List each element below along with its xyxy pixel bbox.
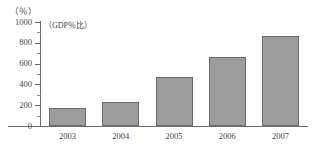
x-tick-label: 2006 [201, 131, 254, 141]
bar-2005 [156, 77, 193, 126]
y-tick-label: 200 [19, 101, 32, 110]
y-axis-unit-label: （％） [10, 4, 38, 16]
bar-2007 [262, 36, 299, 126]
x-axis-line [8, 126, 308, 127]
bar-2006 [209, 57, 246, 126]
x-tick-label: 2003 [41, 131, 94, 141]
bar-chart: （％） （GDP％比） 10008006004002000 2003200420… [0, 0, 315, 163]
y-tick-major [35, 126, 41, 127]
y-tick-label: 1000 [15, 18, 32, 27]
y-tick-label: 400 [19, 80, 32, 89]
x-tick-label: 2004 [94, 131, 147, 141]
x-tick-label: 2005 [147, 131, 200, 141]
y-tick-label: 600 [19, 59, 32, 68]
bar-2004 [102, 102, 139, 126]
y-tick-label: 800 [19, 38, 32, 47]
x-tick-label: 2007 [254, 131, 307, 141]
y-tick-label: 0 [28, 122, 32, 131]
bar-2003 [49, 108, 86, 126]
